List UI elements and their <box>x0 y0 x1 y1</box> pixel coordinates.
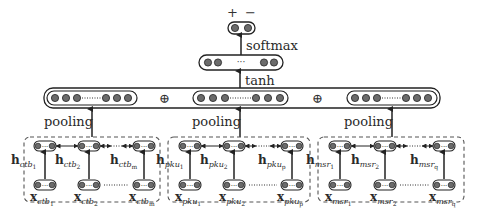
svg-text:···: ··· <box>289 182 296 190</box>
tanh-label: tanh <box>245 74 275 87</box>
svg-text:···: ··· <box>337 143 344 151</box>
svg-text:···: ··· <box>86 182 93 190</box>
hidden-state-label-msr-q: hmsrq <box>410 154 438 170</box>
pooling-label-ctb: pooling <box>44 115 93 128</box>
svg-text:···: ··· <box>187 182 194 190</box>
hidden-state-label-ctb-2: hctb2 <box>55 154 80 170</box>
class-positive-label: + <box>227 6 238 19</box>
svg-text:···: ··· <box>337 182 344 190</box>
hidden-state-label-msr-2: hmsr2 <box>351 154 379 170</box>
hidden-state-label-pku-2: hpku2 <box>200 154 228 170</box>
hidden-state-label-msr-1: hmsr1 <box>306 154 334 170</box>
svg-text:···: ··· <box>441 182 448 190</box>
input-label-ctb-m: xctbm <box>129 191 155 207</box>
class-negative-label: − <box>245 6 256 19</box>
svg-text:···: ··· <box>382 143 389 151</box>
input-label-pku-2: xpku2 <box>219 191 245 207</box>
input-label-pku-p: xpkup <box>277 191 303 207</box>
svg-text:···: ··· <box>187 143 194 151</box>
svg-text:···: ··· <box>441 143 448 151</box>
hidden-state-label-ctb-m: hctbm <box>110 154 137 170</box>
hidden-state-label-pku-p: hpkup <box>258 154 286 170</box>
input-label-msr-1: xmsr1 <box>325 191 352 207</box>
concat-symbol-2: ⊕ <box>312 92 323 105</box>
diagram-canvas: ··· <box>0 0 484 214</box>
output-layer <box>228 22 255 34</box>
svg-text:···: ··· <box>289 143 296 151</box>
pooled-vector-pku <box>193 91 288 105</box>
hidden-state-label-pku-1: hpku1 <box>156 154 184 170</box>
input-label-pku-1: xpku1 <box>175 191 201 207</box>
input-label-ctb-1: xctb1 <box>30 191 54 207</box>
pooling-label-msr: pooling <box>344 115 393 128</box>
hidden-layer: ··· <box>199 55 283 70</box>
svg-text:···: ··· <box>141 182 148 190</box>
concat-symbol-1: ⊕ <box>159 92 170 105</box>
input-label-msr-q: xmsrq <box>429 191 456 207</box>
input-label-ctb-2: xctb2 <box>74 191 98 207</box>
svg-text:···: ··· <box>231 182 238 190</box>
pooled-vector-msr <box>347 91 437 105</box>
svg-text:···: ··· <box>382 182 389 190</box>
input-label-msr-2: xmsr2 <box>370 191 397 207</box>
svg-text:···: ··· <box>141 143 148 151</box>
pooled-vector-ctb <box>47 91 137 105</box>
pooling-label-pku: pooling <box>192 115 241 128</box>
svg-text:···: ··· <box>237 57 246 67</box>
svg-text:···: ··· <box>42 182 49 190</box>
svg-text:···: ··· <box>86 143 93 151</box>
softmax-label: softmax <box>246 39 298 52</box>
svg-text:···: ··· <box>42 143 49 151</box>
hidden-state-label-ctb-1: hctb1 <box>11 154 36 170</box>
svg-text:···: ··· <box>231 143 238 151</box>
